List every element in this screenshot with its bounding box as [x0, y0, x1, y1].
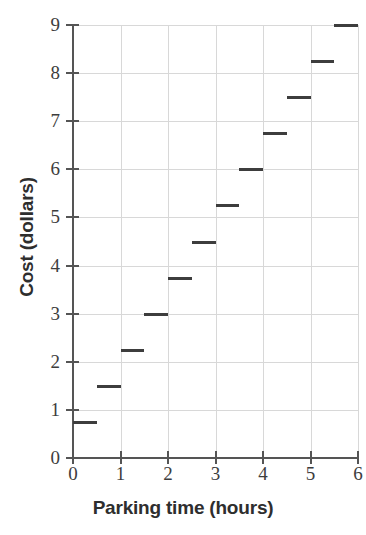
y-axis-tick: [66, 72, 79, 74]
y-axis-tick-label: 7: [20, 111, 60, 130]
y-axis-line: [72, 24, 74, 459]
y-axis-tick: [66, 120, 79, 122]
x-axis-tick-label: 0: [58, 464, 88, 483]
x-axis-tick-label: 5: [296, 464, 326, 483]
y-axis-tick: [66, 409, 79, 411]
step-segment: [168, 277, 192, 280]
y-axis-title: Cost (dollars): [16, 97, 38, 377]
step-segment: [144, 313, 168, 316]
y-axis-tick-label: 5: [20, 207, 60, 226]
y-axis-tick: [66, 313, 79, 315]
gridline-vertical: [263, 25, 264, 458]
step-segment: [287, 96, 311, 99]
x-axis-tick-label: 3: [201, 464, 231, 483]
y-axis-tick-label: 2: [20, 352, 60, 371]
gridline-vertical: [216, 25, 217, 458]
x-axis-title: Parking time (hours): [0, 497, 366, 519]
y-axis-tick-label: 0: [20, 448, 60, 467]
step-segment: [216, 204, 240, 207]
gridline-vertical: [121, 25, 122, 458]
step-segment: [97, 385, 121, 388]
y-axis-tick-label: 3: [20, 304, 60, 323]
y-axis-tick: [66, 265, 79, 267]
step-segment: [192, 241, 216, 244]
step-segment: [334, 24, 358, 27]
x-axis-tick-label: 4: [248, 464, 278, 483]
y-axis-tick-label: 8: [20, 63, 60, 82]
step-segment: [263, 132, 287, 135]
step-segment: [121, 349, 145, 352]
y-axis-tick: [66, 361, 79, 363]
y-axis-tick: [66, 216, 79, 218]
y-axis-tick: [66, 24, 79, 26]
step-segment: [73, 421, 97, 424]
x-axis-tick-label: 6: [343, 464, 366, 483]
y-axis-tick-label: 1: [20, 400, 60, 419]
gridline-vertical: [311, 25, 312, 458]
y-axis-tick: [66, 168, 79, 170]
step-segment: [239, 168, 263, 171]
x-axis-tick-label: 1: [106, 464, 136, 483]
gridline-vertical: [358, 25, 359, 458]
gridline-vertical: [168, 25, 169, 458]
y-axis-tick-label: 9: [20, 15, 60, 34]
y-axis-tick-label: 6: [20, 159, 60, 178]
y-axis-tick-label: 4: [20, 256, 60, 275]
plot-area: [73, 25, 358, 458]
x-axis-tick-label: 2: [153, 464, 183, 483]
step-chart: Cost (dollars) Parking time (hours) 0123…: [0, 0, 366, 535]
step-segment: [311, 60, 335, 63]
